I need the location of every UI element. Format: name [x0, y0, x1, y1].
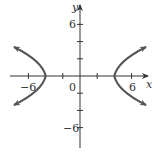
y-tick-label-neg6: −6	[63, 122, 79, 135]
hyperbola-chart: y x −6 0 6 6 −6	[0, 0, 160, 154]
right-branch-upper	[114, 47, 146, 76]
x-tick-label-neg6: −6	[20, 81, 36, 94]
left-branch-upper	[14, 47, 46, 76]
y-axis-label: y	[71, 1, 79, 14]
x-tick-label-6: 6	[129, 81, 136, 94]
y-tick-label-6: 6	[69, 18, 76, 31]
x-tick-label-0: 0	[69, 81, 76, 94]
x-axis-label: x	[146, 78, 153, 91]
